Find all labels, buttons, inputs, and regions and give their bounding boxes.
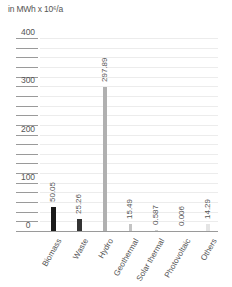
bar-hydro — [103, 87, 107, 231]
value-label: 50.05 — [48, 182, 57, 202]
gridline — [40, 154, 218, 155]
unit-label: in MWh x 10⁶/a — [8, 4, 63, 14]
gridline — [40, 183, 218, 184]
value-label: 0.587 — [151, 205, 160, 225]
y-tick — [16, 163, 38, 164]
bar-solar-thermal — [155, 230, 158, 231]
y-tick — [16, 144, 38, 145]
y-tick-label: 200 — [18, 124, 38, 134]
bar-biomass — [51, 207, 56, 231]
y-tick — [16, 192, 38, 193]
y-tick — [16, 38, 38, 39]
gridline — [40, 106, 218, 107]
x-tick-label: Photovoltaic — [163, 237, 193, 279]
y-tick — [16, 212, 38, 213]
x-tick-label: Waste — [71, 237, 90, 261]
x-tick-label: Solar thermal — [135, 237, 167, 283]
gridline — [40, 115, 218, 116]
y-tick-label: 100 — [18, 172, 38, 182]
gridline — [40, 192, 218, 193]
bar-geothermal — [129, 224, 132, 231]
gridline — [40, 77, 218, 78]
gridline — [40, 173, 218, 174]
value-label: 14.29 — [203, 199, 212, 219]
gridline — [40, 96, 218, 97]
y-tick — [16, 96, 38, 97]
gridline — [40, 144, 218, 145]
x-tick-label: Others — [199, 237, 219, 262]
y-tick — [16, 106, 38, 107]
y-tick — [16, 135, 38, 136]
gridline — [40, 135, 218, 136]
bar-chart: in MWh x 10⁶/a 010020030040050.05Biomass… — [0, 0, 232, 287]
y-tick-label: 300 — [18, 75, 38, 85]
x-tick-label: Biomass — [41, 237, 64, 268]
y-tick — [16, 115, 38, 116]
y-tick — [16, 57, 38, 58]
gridline — [40, 57, 218, 58]
gridline — [40, 86, 218, 87]
gridline — [40, 125, 218, 126]
value-label: 297.89 — [100, 58, 109, 82]
x-axis-baseline — [16, 231, 218, 232]
y-tick — [16, 86, 38, 87]
x-tick-label: Hydro — [97, 237, 115, 260]
y-tick — [16, 48, 38, 49]
gridline — [40, 48, 218, 49]
gridline — [40, 67, 218, 68]
y-tick — [16, 202, 38, 203]
value-label: 0.006 — [177, 206, 186, 226]
y-tick — [16, 154, 38, 155]
value-label: 15.49 — [125, 198, 134, 218]
gridline — [40, 38, 218, 39]
value-label: 25.26 — [74, 194, 83, 214]
y-tick — [16, 67, 38, 68]
gridline — [40, 163, 218, 164]
bar-others — [206, 224, 210, 231]
gridline — [40, 221, 218, 222]
y-tick-label: 400 — [18, 27, 38, 37]
bar-waste — [77, 219, 82, 231]
x-tick-label: Geothermal — [112, 237, 141, 278]
y-tick — [16, 183, 38, 184]
y-tick-label: 0 — [18, 220, 38, 230]
